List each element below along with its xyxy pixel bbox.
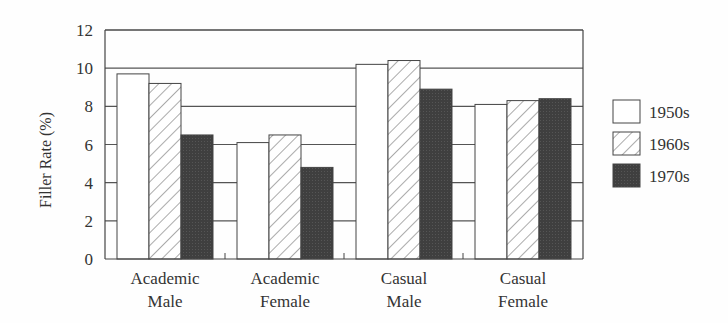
bar-1970s <box>181 135 213 259</box>
x-category-label: Casual <box>500 269 547 288</box>
bar-1960s <box>507 101 539 259</box>
y-tick-label: 10 <box>76 59 93 78</box>
bar-1970s <box>420 89 452 259</box>
legend-swatch-1960s <box>613 132 640 155</box>
bar-1950s <box>356 64 388 259</box>
y-tick-labels: 024681012 <box>76 21 94 269</box>
legend: 1950s1960s1970s <box>613 100 690 187</box>
y-tick-label: 6 <box>85 136 94 155</box>
x-category-label: Female <box>498 292 548 311</box>
bars <box>117 61 571 259</box>
y-tick-label: 12 <box>76 21 93 40</box>
y-tick-label: 2 <box>85 212 94 231</box>
legend-swatch-1970s <box>613 164 640 187</box>
bar-1970s <box>539 99 571 259</box>
x-category-label: Female <box>260 292 310 311</box>
bar-chart: 024681012 AcademicMaleAcademicFemaleCasu… <box>0 0 728 323</box>
bar-1960s <box>149 83 181 259</box>
x-category-label: Casual <box>381 269 428 288</box>
bar-1960s <box>269 135 301 259</box>
bar-1950s <box>237 143 269 259</box>
x-category-label: Male <box>148 292 183 311</box>
x-category-label: Academic <box>251 269 320 288</box>
bar-1960s <box>388 61 420 259</box>
x-category-label: Academic <box>131 269 200 288</box>
legend-label: 1960s <box>649 135 690 154</box>
legend-swatch-1950s <box>613 100 640 123</box>
x-category-labels: AcademicMaleAcademicFemaleCasualMaleCasu… <box>131 269 548 311</box>
bar-1950s <box>117 74 149 259</box>
bar-1950s <box>475 104 507 259</box>
x-category-label: Male <box>387 292 422 311</box>
y-tick-label: 0 <box>85 250 94 269</box>
y-axis-label: Filler Rate (%) <box>37 112 55 208</box>
legend-label: 1950s <box>649 103 690 122</box>
bar-1970s <box>301 167 333 259</box>
legend-label: 1970s <box>649 167 690 186</box>
y-tick-label: 8 <box>85 97 94 116</box>
y-tick-label: 4 <box>85 174 94 193</box>
